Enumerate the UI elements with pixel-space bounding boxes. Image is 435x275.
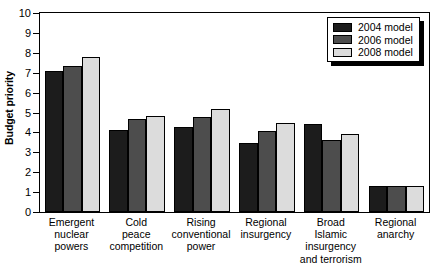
legend-item[interactable]: 2006 model <box>333 34 415 46</box>
x-axis-label-line: anarchy <box>349 228 435 240</box>
legend-item-label: 2006 model <box>358 34 413 46</box>
legend-item[interactable]: 2004 model <box>333 21 415 33</box>
bar <box>146 116 165 213</box>
legend-item-label: 2004 model <box>358 21 413 33</box>
y-axis-tick-label: 7 <box>25 67 31 79</box>
y-axis-tick-mark <box>33 132 40 133</box>
x-axis-label-line: power <box>154 240 247 252</box>
bar <box>276 123 295 212</box>
bar <box>82 57 101 212</box>
bar <box>387 186 406 212</box>
bar <box>406 186 425 212</box>
chart-legend: 2004 model2006 model2008 model <box>327 17 420 62</box>
bar <box>258 131 277 212</box>
y-axis-tick-label: 10 <box>19 7 31 19</box>
bar <box>109 130 128 212</box>
legend-swatch-icon <box>333 23 352 32</box>
bar-chart: Budget priority 012345678910 Emergentnuc… <box>0 0 435 275</box>
y-axis-title: Budget priority <box>0 0 18 215</box>
x-axis-label-line: insurgency <box>284 240 377 252</box>
bar <box>341 134 360 212</box>
bar <box>322 140 341 212</box>
y-axis-tick-label: 3 <box>25 146 31 158</box>
y-axis-tick-label: 2 <box>25 166 31 178</box>
y-axis-tick-mark <box>33 73 40 74</box>
y-axis-tick-mark <box>33 53 40 54</box>
y-axis-tick-label: 1 <box>25 186 31 198</box>
x-axis-label-line: Regional <box>349 216 435 228</box>
x-axis-label-line: and terrorism <box>284 253 377 265</box>
y-axis-tick-label: 4 <box>25 126 31 138</box>
bar <box>128 119 147 212</box>
y-axis-title-label: Budget priority <box>3 71 15 145</box>
legend-item-label: 2008 model <box>358 46 413 58</box>
bar <box>304 124 323 212</box>
bar-group <box>170 13 235 212</box>
y-axis-tick-mark <box>33 33 40 34</box>
legend-swatch-icon <box>333 35 352 44</box>
y-axis-tick-mark <box>33 212 40 213</box>
y-axis-tick-mark <box>33 192 40 193</box>
bar-group <box>40 13 105 212</box>
bar-group <box>105 13 170 212</box>
y-axis-tick-label: 8 <box>25 47 31 59</box>
bar <box>193 117 212 212</box>
bar <box>45 71 64 212</box>
legend-swatch-icon <box>333 48 352 57</box>
y-axis-tick-mark <box>33 93 40 94</box>
y-axis-tick-label: 6 <box>25 87 31 99</box>
bar <box>211 109 230 212</box>
bar <box>174 127 193 212</box>
bar-group <box>235 13 300 212</box>
y-axis-tick-mark <box>33 113 40 114</box>
y-axis-tick-mark <box>33 152 40 153</box>
x-axis-category-label: Regionalanarchy <box>349 216 435 240</box>
y-axis-tick-label: 9 <box>25 27 31 39</box>
bar <box>63 66 82 212</box>
y-axis-tick-mark <box>33 13 40 14</box>
y-axis-tick-label: 5 <box>25 107 31 119</box>
bar <box>369 186 388 212</box>
legend-item[interactable]: 2008 model <box>333 46 415 58</box>
bar <box>239 143 258 212</box>
x-axis-labels: EmergentnuclearpowersColdpeacecompetitio… <box>39 216 430 274</box>
y-axis-tick-mark <box>33 172 40 173</box>
